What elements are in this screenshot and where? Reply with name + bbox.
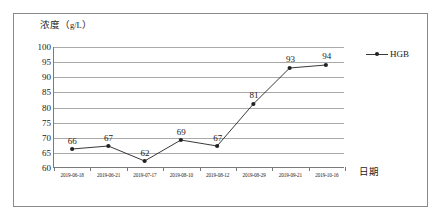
y-axis-title-text: 浓度（ (40, 20, 70, 30)
x-tick-label: 2019-08-10 (170, 172, 193, 178)
chart-frame: 浓度（g/L） 6065707580859095100 2019-06-1820… (13, 13, 428, 207)
legend-marker-icon (366, 50, 388, 58)
x-tick-label: 2019-06-18 (61, 172, 84, 178)
x-tick-mark (200, 167, 201, 171)
data-point-label: 69 (177, 128, 186, 137)
y-tick-label: 60 (42, 164, 51, 173)
x-tick-label: 2019-08-29 (242, 172, 265, 178)
y-axis-title: 浓度（g/L） (40, 19, 92, 31)
y-tick-label: 70 (42, 133, 51, 142)
data-point-label: 94 (322, 52, 331, 61)
x-tick-label: 2019-09-21 (279, 172, 302, 178)
x-tick-label: 2019-08-12 (206, 172, 229, 178)
data-point-label: 66 (68, 137, 77, 146)
data-point-label: 67 (104, 134, 113, 143)
data-point-label: 67 (213, 134, 222, 143)
y-tick-label: 95 (42, 58, 51, 67)
chart-legend: HGB (366, 49, 409, 59)
data-point-marker (106, 144, 110, 148)
y-axis-title-unit: g/L (70, 20, 82, 30)
x-tick-mark (236, 167, 237, 171)
plot-area: 6065707580859095100 2019-06-182019-06-21… (53, 47, 344, 168)
y-tick-label: 90 (42, 73, 51, 82)
y-tick-label: 85 (42, 88, 51, 97)
y-tick-label: 65 (42, 148, 51, 157)
x-tick-mark (272, 167, 273, 171)
y-axis-title-close: ） (82, 20, 92, 30)
x-tick-label: 2019-07-17 (133, 172, 156, 178)
data-point-marker (215, 144, 219, 148)
data-point-marker (288, 66, 292, 70)
x-tick-mark (345, 167, 346, 171)
series-hgb (54, 47, 344, 167)
data-point-marker (70, 147, 74, 151)
x-tick-mark (163, 167, 164, 171)
x-tick-mark (309, 167, 310, 171)
x-tick-mark (90, 167, 91, 171)
x-tick-label: 2019-06-21 (97, 172, 120, 178)
data-point-marker (251, 102, 255, 106)
data-point-label: 93 (286, 55, 295, 64)
y-tick-label: 100 (38, 43, 52, 52)
y-tick-label: 80 (42, 103, 51, 112)
legend-label-hgb: HGB (390, 49, 409, 59)
x-tick-mark (127, 167, 128, 171)
x-tick-label: 2019-10-16 (315, 172, 338, 178)
x-tick-mark (54, 167, 55, 171)
data-point-marker (179, 138, 183, 142)
data-point-label: 81 (250, 91, 259, 100)
data-point-label: 62 (140, 149, 149, 158)
y-tick-label: 75 (42, 118, 51, 127)
data-point-marker (143, 159, 147, 163)
x-axis-title: 日期 (359, 166, 379, 178)
data-point-marker (324, 63, 328, 67)
